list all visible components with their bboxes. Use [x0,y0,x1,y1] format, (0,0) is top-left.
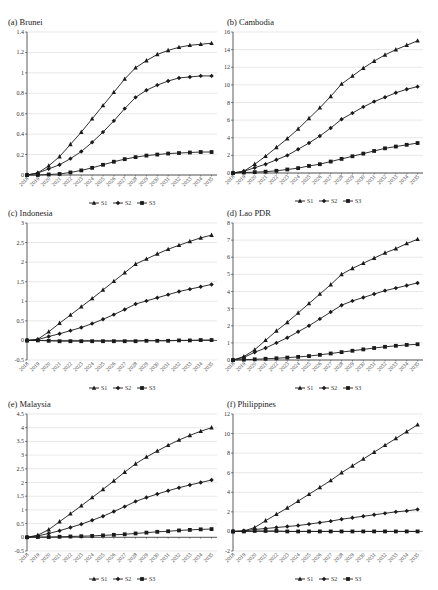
square-marker [199,150,203,154]
x-tick-label: 2029 [343,173,355,185]
diamond-marker [188,483,192,487]
x-tick-label: 2035 [202,551,214,563]
y-tick-label: 3.5 [17,438,25,444]
square-marker [346,386,350,390]
gridlines [231,32,423,173]
gridlines [231,223,423,360]
y-tick-label: 2 [21,480,24,486]
diamond-marker [372,513,376,517]
square-marker [155,339,159,343]
chart-panel-malaysia: (e) Malaysia-0.500.511.522.533.544.52018… [0,394,219,589]
triangle-marker [47,329,51,333]
diamond-marker [329,519,333,523]
square-marker [90,534,94,538]
diamond-marker [339,303,343,307]
square-marker [58,172,62,176]
x-tick-label: 2026 [105,360,117,372]
x-tick-label: 2028 [126,551,138,563]
square-marker [79,339,83,343]
square-marker [231,530,235,534]
x-tick-label: 2035 [408,360,420,372]
square-marker [47,339,51,343]
y-tick-label: 2 [227,323,230,329]
square-marker [47,535,51,539]
x-tick-label: 2025 [300,360,312,372]
diamond-marker [394,91,398,95]
triangle-marker [209,41,213,45]
x-tick-label: 2035 [408,173,420,185]
x-tick-label: 2029 [137,360,149,372]
triangle-marker [57,519,61,523]
triangle-marker [123,469,127,473]
x-tick-label: 2023 [278,360,290,372]
diamond-marker [372,292,376,296]
x-tick-label: 2019 [29,360,41,372]
y-tick-label: 3 [227,306,230,312]
diamond-marker [307,324,311,328]
x-tick-label: 2023 [278,173,290,185]
x-tick-label: 2029 [137,175,149,187]
square-marker [177,151,181,155]
x-tick-label: 2024 [289,360,301,372]
diamond-marker [123,504,127,508]
line-chart: -0.500.511.522.533.544.52018201920202021… [0,394,219,589]
square-marker [134,155,138,159]
square-marker [253,170,257,174]
square-marker [329,160,333,164]
x-tick-label: 2021 [50,551,62,563]
x-tick-label: 2027 [115,175,127,187]
diamond-marker [329,310,333,314]
legend: S1S2S3 [295,385,361,391]
chart-panel-indonesia: (c) Indonesia-0.500.511.522.532018201920… [0,203,219,398]
x-tick-label: 2034 [191,360,203,372]
square-marker [231,358,235,362]
triangle-marker [318,485,322,489]
y-tick-label: 6 [227,470,230,476]
square-marker [307,354,311,358]
x-tick-label: 2020 [39,175,51,187]
legend: S1S2S3 [295,576,361,582]
line-chart: -0.500.511.522.5320182019202020212022202… [0,203,219,398]
x-tick-label: 2031 [159,175,171,187]
diamond-marker [155,83,159,87]
x-tick-label: 2023 [278,551,290,563]
square-marker [296,530,300,534]
y-tick-label: 8 [227,220,230,226]
x-tick-label: 2032 [376,551,388,563]
diamond-marker [47,531,51,535]
x-tick-label: 2027 [115,360,127,372]
diamond-marker [318,317,322,321]
x-tick-label: 2031 [365,551,377,563]
legend-label-s1: S1 [101,576,107,582]
triangle-marker [350,463,354,467]
diamond-marker [199,74,203,78]
diamond-marker [296,330,300,334]
diamond-marker [177,289,181,293]
square-marker [36,339,40,343]
x-tick-label: 2026 [105,551,117,563]
x-tick-label: 2025 [94,551,106,563]
x-tick-label: 2033 [387,551,399,563]
x-tick-label: 2027 [115,551,127,563]
square-marker [242,358,246,362]
diamond-marker [361,514,365,518]
x-tick-label: 2020 [39,360,51,372]
y-tick-label: 4 [21,425,24,431]
triangle-marker [394,436,398,440]
triangle-marker [307,301,311,305]
y-tick-label: 3 [21,452,24,458]
y-tick-label: 0.5 [17,521,25,527]
x-tick-label: 2029 [343,551,355,563]
square-marker [90,339,94,343]
x-tick-label: 2032 [170,551,182,563]
diamond-marker [116,577,120,581]
square-marker [275,356,279,360]
diamond-marker [296,523,300,527]
x-tick-label: 2022 [267,551,279,563]
square-marker [90,166,94,170]
y-tick-label: 16 [224,29,230,35]
diamond-marker [57,332,61,336]
square-marker [69,171,73,175]
x-tick-label: 2034 [397,173,409,185]
x-tick-label: 2026 [311,551,323,563]
